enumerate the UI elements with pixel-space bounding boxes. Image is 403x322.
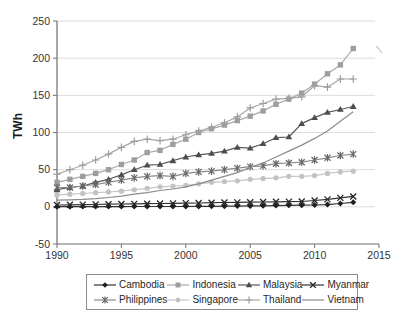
plus-marker: [324, 83, 332, 91]
plus-marker: [156, 137, 164, 145]
legend-square-icon: [167, 280, 189, 290]
legend-item-malaysia: Malaysia: [238, 280, 302, 290]
chart-plot: -500501001502002501990199520002005201020…: [0, 0, 403, 270]
circle-marker: [286, 174, 291, 179]
legend-label-cambodia: Cambodia: [119, 280, 165, 290]
artifact-mark: [376, 46, 382, 53]
square-marker: [80, 174, 85, 179]
legend-label-vietnam: Vietnam: [327, 295, 364, 305]
y-axis-title: TWh: [11, 113, 25, 139]
circle-marker: [106, 189, 111, 194]
plus-marker: [92, 156, 100, 164]
circle-marker: [338, 169, 343, 174]
legend-label-philippines: Philippines: [119, 295, 167, 305]
chart-legend: CambodiaIndonesiaMalaysiaMyanmarPhilippi…: [86, 274, 358, 310]
y-tick-label-50: 50: [38, 163, 50, 175]
legend-plus-icon: [238, 295, 260, 305]
series-line-malaysia: [57, 107, 353, 190]
series-line-indonesia: [57, 49, 353, 183]
triangle-marker: [350, 103, 357, 109]
series-markers-indonesia: [54, 46, 356, 185]
x-tick-label-1990: 1990: [45, 249, 69, 261]
circle-marker: [170, 183, 175, 188]
legend-item-indonesia: Indonesia: [167, 280, 238, 290]
square-marker: [248, 113, 253, 118]
circle-marker: [273, 175, 278, 180]
square-marker: [106, 167, 111, 172]
legend-circle-icon: [167, 295, 189, 305]
y-tick-label-250: 250: [32, 15, 50, 27]
series-markers-philippines: [54, 150, 356, 191]
diamond-marker: [337, 200, 343, 206]
circle-marker: [67, 192, 72, 197]
square-marker: [67, 177, 72, 182]
square-marker: [144, 150, 149, 155]
plus-marker: [130, 138, 138, 146]
square-marker: [338, 62, 343, 67]
axes-layer: -500501001502002501990199520002005201020…: [32, 15, 390, 262]
square-marker: [119, 162, 124, 167]
plus-marker: [246, 104, 254, 112]
circle-marker: [157, 184, 162, 189]
circle-marker: [235, 178, 240, 183]
series-line-thailand: [57, 79, 353, 174]
legend-item-myanmar: Myanmar: [302, 280, 369, 290]
diamond-marker: [157, 204, 163, 210]
legend-item-singapore: Singapore: [167, 295, 238, 305]
x-tick-label-1995: 1995: [110, 249, 134, 261]
circle-marker: [145, 186, 150, 191]
y-tick-label--50: -50: [35, 238, 50, 250]
series-line-vietnam: [57, 112, 353, 200]
triangle-marker: [234, 144, 241, 150]
square-marker: [93, 171, 98, 176]
series-markers-malaysia: [54, 103, 357, 192]
x-tick-label-2015: 2015: [367, 249, 391, 261]
circle-marker: [132, 187, 137, 192]
plus-marker: [105, 150, 113, 158]
circle-marker: [312, 173, 317, 178]
diamond-marker: [350, 199, 356, 205]
plus-marker: [337, 75, 345, 83]
legend-item-cambodia: Cambodia: [94, 280, 167, 290]
plus-marker: [66, 166, 74, 174]
y-tick-label-200: 200: [32, 52, 50, 64]
plus-marker: [349, 75, 357, 83]
y-tick-label-0: 0: [44, 200, 50, 212]
chart-figure: -500501001502002501990199520002005201020…: [0, 0, 403, 322]
legend-star-icon: [94, 295, 116, 305]
square-marker: [157, 148, 162, 153]
circle-marker: [248, 177, 253, 182]
plus-marker: [118, 144, 126, 152]
legend-diamond-icon: [94, 280, 116, 290]
plus-marker: [79, 161, 87, 169]
square-marker: [351, 46, 356, 51]
legend-label-singapore: Singapore: [192, 295, 238, 305]
circle-marker: [93, 190, 98, 195]
plus-marker: [259, 100, 267, 108]
circle-marker: [54, 192, 59, 197]
y-tick-label-150: 150: [32, 89, 50, 101]
legend-label-myanmar: Myanmar: [327, 280, 369, 290]
circle-marker: [260, 176, 265, 181]
x-tick-label-2000: 2000: [174, 249, 198, 261]
x-tick-label-2005: 2005: [239, 249, 263, 261]
circle-marker: [351, 169, 356, 174]
square-marker: [325, 71, 330, 76]
legend-item-philippines: Philippines: [94, 295, 167, 305]
diamond-marker: [170, 203, 176, 209]
y-tick-label-100: 100: [32, 126, 50, 138]
square-marker: [132, 157, 137, 162]
circle-marker: [299, 174, 304, 179]
legend-label-malaysia: Malaysia: [263, 280, 302, 290]
legend-x-icon: [302, 280, 324, 290]
legend-triangle-icon: [238, 280, 260, 290]
plus-marker: [53, 170, 61, 178]
legend-label-indonesia: Indonesia: [192, 280, 235, 290]
series-layer: [53, 46, 357, 210]
circle-marker: [222, 179, 227, 184]
legend-item-thailand: Thailand: [238, 295, 302, 305]
legend-label-thailand: Thailand: [263, 295, 301, 305]
circle-marker: [119, 189, 124, 194]
legend-item-vietnam: Vietnam: [302, 295, 369, 305]
legend-line-icon: [302, 295, 324, 305]
